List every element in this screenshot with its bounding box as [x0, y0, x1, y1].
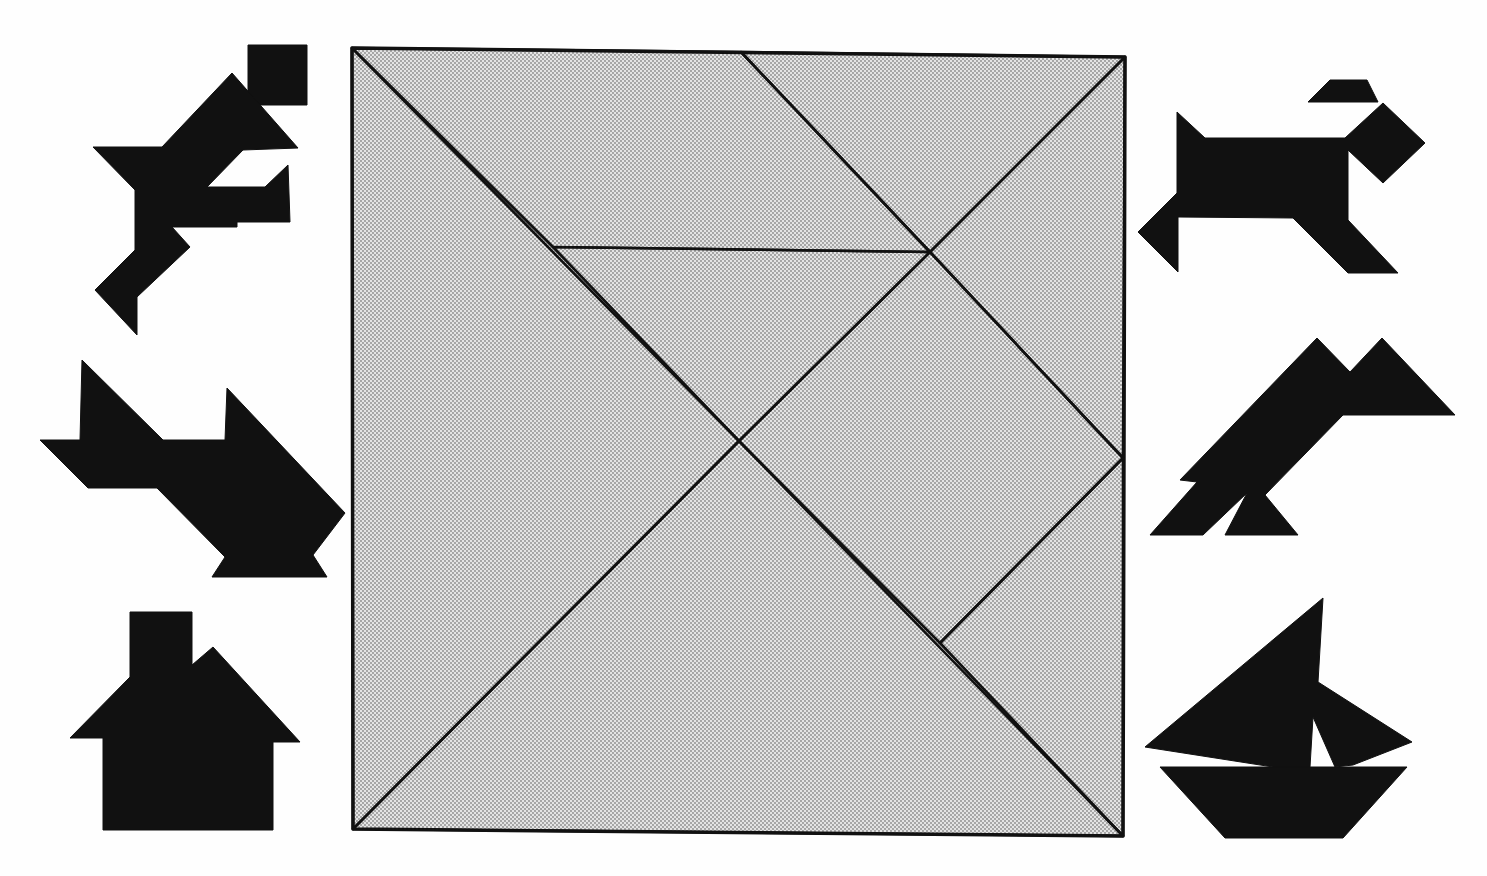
silhouette-bird: [1150, 338, 1455, 535]
airplane-shape-0: [40, 360, 345, 577]
house-shape-0: [70, 612, 300, 830]
silhouette-house: [70, 612, 300, 830]
sailboat-shape-1: [1160, 767, 1407, 838]
silhouette-sailboat: [1145, 598, 1412, 838]
dog-shape-0: [1138, 103, 1425, 273]
running-man-shape-0: [248, 45, 307, 105]
sailboat-shape-0: [1145, 598, 1412, 767]
silhouette-dog: [1138, 80, 1425, 273]
bird-shape-0: [1150, 338, 1455, 535]
running-man-shape-1: [93, 73, 298, 335]
silhouette-running-man: [93, 45, 307, 335]
tangram-square: [352, 48, 1125, 836]
dog-shape-1: [1308, 80, 1378, 102]
tangram-page: [0, 0, 1487, 876]
tangram-scene: [0, 0, 1487, 876]
silhouette-airplane: [40, 360, 345, 577]
